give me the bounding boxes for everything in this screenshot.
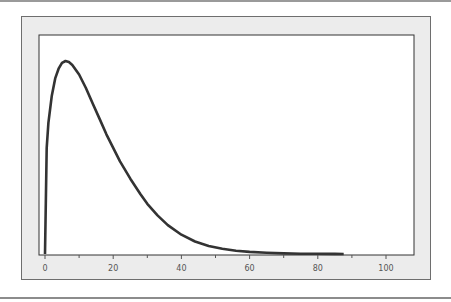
x-tick-label: 80: [313, 264, 323, 273]
x-tick-label: 40: [176, 264, 186, 273]
x-axis-ticks: [45, 255, 386, 259]
chart-canvas: 020406080100: [0, 0, 451, 302]
x-tick-label: 0: [42, 264, 47, 273]
x-tick-label: 60: [245, 264, 255, 273]
x-tick-label: 100: [378, 264, 393, 273]
x-tick-label: 20: [108, 264, 118, 273]
bottom-divider: [0, 297, 451, 299]
x-axis-labels: 020406080100: [42, 264, 393, 273]
plot-area: [39, 35, 414, 255]
